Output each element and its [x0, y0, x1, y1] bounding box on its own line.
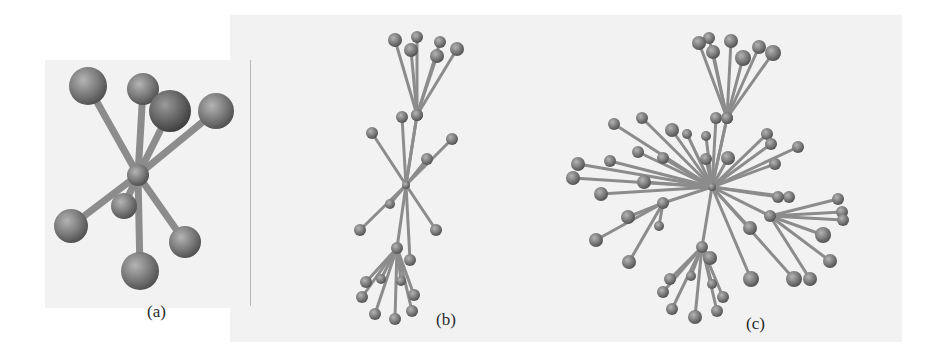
atom-node [654, 221, 664, 231]
atom-node [721, 151, 735, 165]
atom-node [664, 273, 676, 285]
atom-node [369, 308, 381, 320]
atom-node [703, 251, 717, 265]
central-hub-node [127, 164, 149, 186]
bond [727, 53, 773, 118]
atom-node [700, 153, 712, 165]
panel-b-caption: (b) [436, 310, 456, 330]
atom-node [710, 112, 722, 124]
atom-node [701, 131, 711, 141]
central-hub-node [708, 183, 716, 191]
atom-node [360, 276, 372, 288]
atom-node [622, 255, 636, 269]
central-hub-node [402, 181, 410, 189]
atom-node [121, 252, 159, 290]
atom-node [765, 138, 777, 150]
panel-c-dense-tree [566, 32, 849, 324]
atom-node [389, 313, 401, 325]
bond [362, 248, 397, 297]
atom-node [411, 31, 423, 43]
atom-node [396, 276, 406, 286]
atom-node [396, 111, 408, 123]
sub-hub-node [721, 112, 733, 124]
atom-node [665, 123, 679, 137]
sub-hub-node [411, 109, 423, 121]
atom-node [783, 191, 795, 203]
atom-node [752, 40, 766, 54]
panel-c-caption: (c) [746, 314, 765, 334]
atom-node [404, 254, 416, 266]
atom-node [434, 36, 446, 48]
molecule-figure [0, 0, 944, 358]
bond [406, 185, 436, 230]
sub-hub-node [696, 241, 708, 253]
atom-node [792, 141, 804, 153]
atom-node [743, 221, 757, 235]
atom-node [637, 175, 651, 189]
panel-a-caption: (a) [147, 302, 166, 322]
atom-node [354, 224, 366, 236]
atom-node [604, 155, 616, 167]
atom-node [169, 226, 201, 258]
atom-node [686, 271, 696, 281]
atom-node [430, 49, 444, 63]
atom-node [682, 129, 692, 139]
atom-node [149, 90, 191, 132]
atom-node [356, 291, 368, 303]
atom-node [589, 233, 603, 247]
atom-node [717, 291, 729, 303]
atom-node [376, 274, 386, 284]
atom-node [837, 214, 849, 226]
sub-hub-node [657, 197, 669, 209]
atom-node [408, 289, 420, 301]
atom-node [404, 43, 418, 57]
atom-node [406, 305, 418, 317]
atom-node [823, 254, 837, 268]
bond [402, 117, 406, 185]
atom-node [594, 187, 608, 201]
atom-node [692, 36, 706, 50]
atom-node [385, 199, 395, 209]
atom-node [450, 42, 464, 56]
atom-node [688, 310, 702, 324]
sub-hub-node [764, 210, 776, 222]
bond [372, 133, 406, 185]
bond [712, 134, 767, 187]
atom-node [706, 45, 720, 59]
atom-node [786, 271, 802, 287]
atom-node [566, 171, 580, 185]
atom-node [743, 271, 759, 287]
atom-node [608, 118, 620, 130]
bond [702, 187, 712, 247]
atom-node [636, 112, 648, 124]
sub-hub-node [391, 242, 403, 254]
atom-node [198, 93, 234, 129]
atom-node [388, 33, 402, 47]
atom-node [815, 227, 831, 243]
atom-node [657, 286, 669, 298]
atom-node [832, 193, 844, 205]
panel-a-octahedral-star [54, 67, 234, 290]
bond [406, 185, 410, 260]
atom-node [707, 279, 717, 289]
atom-node [769, 158, 781, 170]
atom-node [69, 67, 107, 105]
atom-node [621, 210, 635, 224]
atom-node [735, 50, 751, 66]
atom-node [430, 224, 442, 236]
atom-node [366, 127, 378, 139]
atom-node [666, 303, 678, 315]
atom-node [571, 157, 585, 171]
atom-node [765, 45, 781, 61]
atom-node [421, 153, 433, 165]
atom-node [657, 152, 669, 164]
atom-node [724, 34, 738, 48]
bond [770, 216, 810, 279]
panel-b-sparse-tree [354, 31, 464, 325]
atom-node [711, 305, 723, 317]
atom-node [446, 133, 458, 145]
atom-node [111, 193, 137, 219]
atom-node [772, 191, 784, 203]
atom-node [632, 146, 644, 158]
atom-node [54, 209, 88, 243]
